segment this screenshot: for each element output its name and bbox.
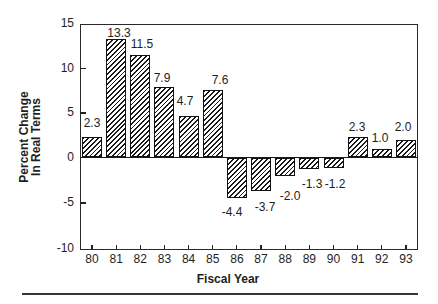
x-tick-mark bbox=[116, 245, 117, 249]
value-label: 7.6 bbox=[212, 74, 229, 86]
bar-fy80 bbox=[82, 137, 102, 157]
bottom-divider bbox=[22, 293, 418, 295]
value-label: 11.5 bbox=[131, 38, 153, 50]
x-tick-mark bbox=[357, 245, 358, 249]
value-label: 2.3 bbox=[84, 117, 101, 129]
bar-fy86 bbox=[227, 158, 247, 198]
bar-fy87 bbox=[251, 158, 271, 192]
value-label: -1.3 bbox=[302, 178, 323, 190]
bar-fy91 bbox=[348, 137, 368, 157]
value-label: 13.3 bbox=[107, 27, 130, 39]
value-label: 7.9 bbox=[154, 72, 171, 84]
x-tick-label: 84 bbox=[177, 253, 201, 265]
value-label: 1.0 bbox=[372, 132, 389, 144]
x-tick-label: 90 bbox=[322, 253, 346, 265]
x-tick-label: 85 bbox=[201, 253, 225, 265]
y-tick-label: 5 bbox=[44, 106, 74, 118]
x-tick-mark bbox=[188, 245, 189, 249]
value-label: 4.7 bbox=[177, 95, 194, 107]
value-label: -4.4 bbox=[222, 206, 243, 218]
x-tick-mark bbox=[405, 245, 406, 249]
y-tick-mark bbox=[80, 112, 86, 113]
x-tick-label: 93 bbox=[394, 253, 418, 265]
x-tick-label: 87 bbox=[249, 253, 273, 265]
x-tick-mark bbox=[91, 245, 92, 249]
bar-fy82 bbox=[130, 55, 150, 157]
x-tick-mark bbox=[236, 245, 237, 249]
y-tick-label: 15 bbox=[44, 17, 74, 29]
y-axis-title-line-2: In Real Terms bbox=[30, 82, 42, 192]
y-tick-label: 10 bbox=[44, 62, 74, 74]
bar-fy83 bbox=[154, 87, 174, 157]
zero-baseline bbox=[80, 157, 418, 159]
x-tick-label: 82 bbox=[128, 253, 152, 265]
y-tick-mark bbox=[80, 68, 86, 69]
x-axis-title: Fiscal Year bbox=[178, 272, 278, 286]
y-axis-title: Percent Change In Real Terms bbox=[18, 82, 42, 192]
bar-fy84 bbox=[179, 116, 199, 158]
x-tick-label: 88 bbox=[273, 253, 297, 265]
x-tick-label: 80 bbox=[80, 253, 104, 265]
x-tick-label: 86 bbox=[225, 253, 249, 265]
x-tick-mark bbox=[285, 245, 286, 249]
x-tick-mark bbox=[164, 245, 165, 249]
y-tick-label: -10 bbox=[44, 242, 74, 254]
value-label: 2.0 bbox=[395, 121, 412, 133]
bar-fy90 bbox=[324, 158, 344, 169]
x-tick-mark bbox=[333, 245, 334, 249]
x-tick-label: 92 bbox=[370, 253, 394, 265]
bar-fy81 bbox=[106, 39, 126, 157]
x-tick-label: 83 bbox=[152, 253, 176, 265]
bar-fy88 bbox=[275, 158, 295, 176]
value-label: -2.0 bbox=[280, 190, 301, 202]
y-tick-mark bbox=[80, 202, 86, 203]
bar-fy85 bbox=[203, 90, 223, 158]
x-tick-label: 81 bbox=[104, 253, 128, 265]
x-tick-label: 91 bbox=[346, 253, 370, 265]
value-label: -3.7 bbox=[255, 201, 276, 213]
y-tick-label: 0 bbox=[44, 151, 74, 163]
y-tick-label: -5 bbox=[44, 196, 74, 208]
bar-fy89 bbox=[299, 158, 319, 170]
x-tick-mark bbox=[140, 245, 141, 249]
x-tick-mark bbox=[260, 245, 261, 249]
bar-chart: 151050-5-102.38013.38111.5827.9834.7847.… bbox=[0, 0, 438, 304]
x-tick-mark bbox=[212, 245, 213, 249]
x-tick-mark bbox=[381, 245, 382, 249]
bar-fy93 bbox=[396, 140, 416, 158]
value-label: 2.3 bbox=[349, 121, 366, 133]
value-label: -1.2 bbox=[325, 178, 346, 190]
x-tick-label: 89 bbox=[297, 253, 321, 265]
x-tick-mark bbox=[309, 245, 310, 249]
